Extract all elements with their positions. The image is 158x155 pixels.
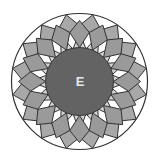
center-label: E [70,72,90,92]
